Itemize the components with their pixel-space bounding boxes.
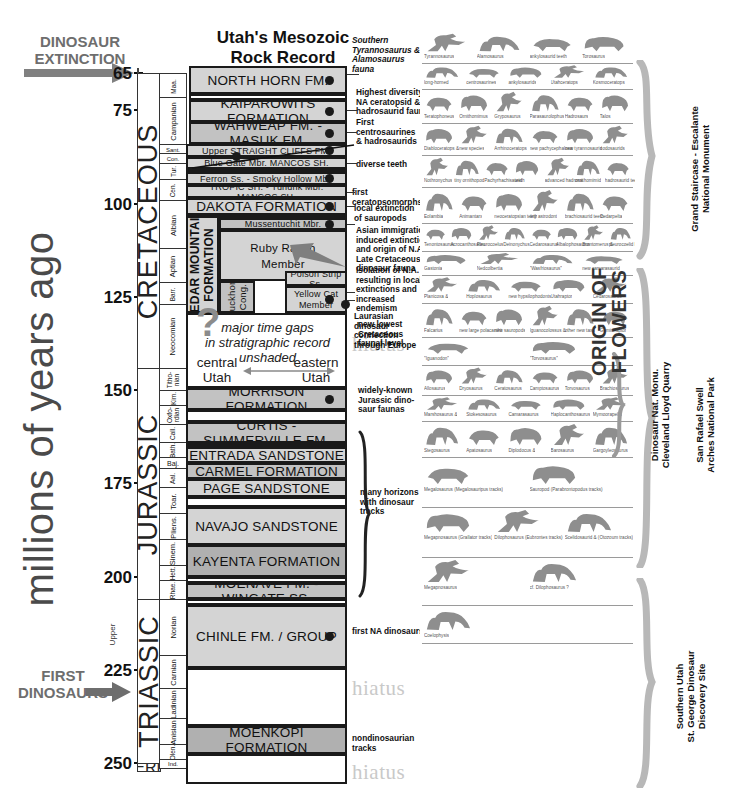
stage-label: Olen. — [169, 745, 176, 761]
fauna-taxon-label: "Wasfriosaurus" — [530, 266, 562, 271]
fauna-taxon-label: Tyrannosaurus — [424, 54, 454, 59]
stage-label: Maa. — [169, 79, 176, 93]
formation-label: BuckhornCong. — [226, 281, 248, 313]
period-cell-triassic: TRIASSIC — [137, 599, 161, 765]
stage-cell: Anisian — [159, 718, 187, 746]
dinosaur-silhouette-icon — [509, 64, 543, 79]
formation-label: NAVAJO SANDSTONE — [195, 519, 338, 534]
stage-label: Hett. — [169, 567, 176, 581]
unshaded-gap-box — [186, 668, 347, 726]
dinosaur-silhouette-icon — [552, 396, 586, 411]
fauna-occurrence-dot[interactable] — [325, 202, 334, 211]
age-tick-label: 175 — [86, 474, 132, 494]
fauna-taxon-label: Utahraptor — [551, 294, 573, 299]
stage-cell: Maa. — [159, 73, 187, 99]
fauna-taxon-label: Apatosaurus — [466, 448, 492, 453]
dinosaur-silhouette-icon — [425, 156, 449, 177]
fauna-occurrence-dot[interactable] — [325, 129, 334, 138]
formation-box[interactable]: Ferron Ss. - Smoky Hollow Mbr. — [186, 172, 347, 185]
formation-box[interactable]: MOENKOPI FORMATION — [186, 726, 347, 754]
fauna-taxon-label: Kosmoceratops — [593, 80, 625, 85]
formation-box[interactable]: BuckhornCong. — [219, 281, 255, 313]
dinosaur-silhouette-icon — [531, 252, 573, 265]
fauna-occurrence-dot[interactable] — [325, 76, 334, 85]
formation-box[interactable]: MOENAVE FM. - WINGATE SS. — [186, 583, 347, 599]
fauna-taxon-label: Megapnosaurus — [424, 585, 457, 590]
fauna-taxon-label: ankylosaurid teeth — [530, 54, 567, 59]
fauna-taxon-label: Animantarx — [459, 214, 482, 219]
formation-box[interactable]: Poison Strip Ss. — [285, 271, 347, 286]
formation-label: CEDAR MOUNTAINFORMATION — [189, 216, 217, 313]
dinosaur-silhouette-icon — [495, 90, 523, 113]
fauna-taxon-label: Planicoxa & — [424, 294, 448, 299]
fauna-taxon-label: Sauropod (Parabrontopodus tracks) — [530, 487, 603, 492]
fauna-taxon-label: Teratophoneus — [424, 114, 454, 119]
dinosaur-silhouette-icon — [576, 156, 600, 177]
dinosaur-silhouette-icon — [495, 188, 523, 213]
stage-cell: Oxfo-rdian — [159, 405, 187, 426]
fauna-annotation: nondinosaurian tracks — [352, 734, 426, 753]
fauna-occurrence-dot[interactable] — [325, 220, 334, 229]
fauna-occurrence-dot[interactable] — [325, 174, 334, 183]
formation-box[interactable]: NORTH HORN FM. — [189, 66, 347, 94]
fauna-taxon-label: Utahceratops — [551, 80, 578, 85]
formation-box[interactable]: CURTIS - SUMMERVILLE FM. — [186, 422, 347, 443]
dinosaur-silhouette-icon — [531, 460, 577, 486]
fauna-taxon-label: Deinonychus — [503, 242, 530, 247]
stage-label: Aptian — [169, 255, 178, 276]
stage-cell: Sinem. — [159, 539, 187, 567]
fauna-taxon-label: Hadrosaurs — [565, 114, 589, 119]
fauna-taxon-label: Diplodocus & — [508, 448, 535, 453]
formation-box[interactable]: CHINLE FM. / GROUP — [186, 605, 347, 668]
formation-box[interactable]: KAYENTA FORMATION — [186, 545, 347, 577]
fauna-occurrence-dot[interactable] — [325, 107, 334, 116]
formation-box[interactable]: TROPIC SH. - Tununk Mbr. MANCOS SH. — [186, 185, 347, 198]
fauna-taxon-label: cf. Dilophosaurus ? — [530, 585, 569, 590]
formation-box[interactable]: CARMEL FORMATION — [186, 463, 347, 479]
stage-label: Carnian — [169, 659, 178, 685]
formation-box[interactable]: PAGE SANDSTONE — [186, 479, 347, 497]
stage-label: Tur. — [170, 166, 177, 177]
fauna-taxon-label: Barosaurus — [551, 448, 575, 453]
stage-cell: Titho-nian — [159, 368, 187, 392]
dinosaur-silhouette-icon — [425, 124, 453, 145]
unshaded-gap-box — [186, 754, 347, 784]
fauna-taxon-label: new species — [459, 146, 484, 151]
fauna-taxon-label: long-horned — [424, 80, 449, 85]
stage-label: Ind. — [168, 761, 178, 767]
formation-box[interactable]: Yellow CatMember — [285, 286, 347, 313]
formation-box[interactable]: WAHWEAP FM. - MASUK FM. — [189, 122, 347, 144]
fauna-annotation: local extinction of sauropods — [354, 204, 428, 223]
dinosaur-silhouette-icon — [552, 64, 586, 79]
fauna-occurrence-dot[interactable] — [341, 300, 350, 309]
dinosaur-silhouette-icon — [478, 32, 520, 53]
stage-label: Norian — [169, 617, 178, 639]
formation-box[interactable]: KAIPAROWITS FORMATION — [189, 100, 347, 122]
formation-box[interactable]: MORRISON FORMATION — [186, 388, 347, 410]
fauna-occurrence-dot[interactable] — [325, 295, 334, 304]
fauna-occurrence-dot[interactable] — [325, 632, 334, 641]
age-tick-label: 75 — [86, 101, 132, 121]
unshaded-gap-box — [186, 410, 347, 422]
formation-box[interactable]: CEDAR MOUNTAINFORMATION — [186, 216, 219, 313]
formation-box[interactable]: DAKOTA FORMATION — [186, 198, 347, 215]
dinosaur-silhouette-icon — [504, 224, 525, 241]
fauna-taxon-label: new sauropods — [494, 328, 525, 333]
hiatus-label-triassic: hiatus — [352, 676, 405, 701]
dinosaur-silhouette-icon — [583, 32, 625, 53]
formation-box[interactable]: ENTRADA SANDSTONE — [186, 447, 347, 463]
formation-label: NORTH HORN FM. — [207, 73, 328, 88]
dinosaur-silhouette-icon — [478, 252, 520, 265]
fauna-taxon-label: Allosaurus — [424, 386, 445, 391]
formation-box[interactable]: NAVAJO SANDSTONE — [186, 507, 347, 545]
dinosaur-silhouette-icon — [460, 124, 488, 145]
fauna-annotation: First centrosaurines & hadrosaurids — [356, 118, 430, 147]
dinosaur-silhouette-icon — [557, 224, 578, 241]
fauna-taxon-label: Gryposaurus — [494, 114, 520, 119]
fauna-taxon-label: Coelophysis — [424, 633, 449, 638]
extinction-line1: DINOSAUR — [24, 33, 136, 50]
san-rafael-text: San Rafael Swell Arches National Park — [694, 325, 716, 525]
stage-cell: Norian — [159, 599, 187, 657]
grand-staircase-text: Grand Staircase - Escalante National Mon… — [689, 69, 711, 269]
fauna-occurrence-dot[interactable] — [325, 395, 334, 404]
